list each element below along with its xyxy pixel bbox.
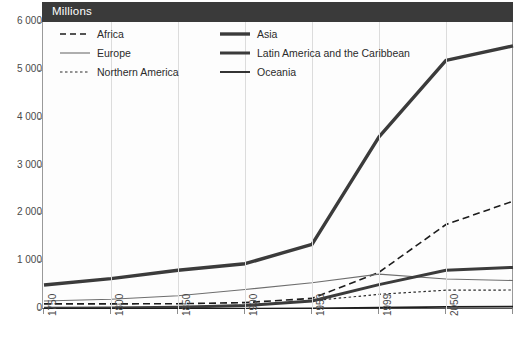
y-tick-label: 6 000 <box>2 15 42 26</box>
legend-label: Oceania <box>257 66 296 78</box>
x-tick-label: 2050 <box>449 294 460 316</box>
x-tick-label: 1950 <box>315 294 326 316</box>
x-gridline <box>446 22 447 309</box>
y-tick-label: 2 000 <box>2 206 42 217</box>
chart-title-band: Millions <box>42 2 513 22</box>
x-tick-mark <box>110 309 111 314</box>
y-tick-label: 0 <box>2 302 42 313</box>
legend-swatch-icon <box>60 67 90 77</box>
x-tick-label: 1999 <box>382 294 393 316</box>
x-tick-mark <box>244 309 245 314</box>
x-tick-label: 1750 <box>47 294 58 316</box>
x-tick-label: 1900 <box>248 294 259 316</box>
y-axis: 01 0002 0003 0004 0005 0006 000 <box>0 0 42 358</box>
legend-label: Latin America and the Caribbean <box>257 47 410 59</box>
y-tick-label: 5 000 <box>2 63 42 74</box>
legend-swatch-icon <box>60 48 90 58</box>
x-tick-mark <box>311 309 312 314</box>
x-tick-mark <box>378 309 379 314</box>
chart-screenshot: Millions 01 0002 0003 0004 0005 0006 000… <box>0 0 515 358</box>
legend-swatch-icon <box>220 48 250 58</box>
x-tick-mark <box>177 309 178 314</box>
chart-unit-label: Millions <box>52 5 92 17</box>
legend-swatch-icon <box>60 29 90 39</box>
legend-label: Northern America <box>97 66 179 78</box>
x-tick-mark <box>445 309 446 314</box>
legend-swatch-icon <box>220 29 250 39</box>
y-tick-label: 3 000 <box>2 159 42 170</box>
x-gridline <box>245 22 246 309</box>
x-tick-mark <box>512 309 513 314</box>
legend-swatch-icon <box>220 67 250 77</box>
x-tick-label: 1850 <box>181 294 192 316</box>
y-tick-label: 4 000 <box>2 111 42 122</box>
series-line <box>44 46 513 285</box>
legend-label: Africa <box>97 28 124 40</box>
y-tick-mark <box>37 309 42 310</box>
x-gridline <box>379 22 380 309</box>
y-tick-label: 1 000 <box>2 254 42 265</box>
legend-label: Asia <box>257 28 277 40</box>
x-tick-label: 1800 <box>114 294 125 316</box>
legend-label: Europe <box>97 47 131 59</box>
x-gridline <box>312 22 313 309</box>
x-tick-mark <box>43 309 44 314</box>
